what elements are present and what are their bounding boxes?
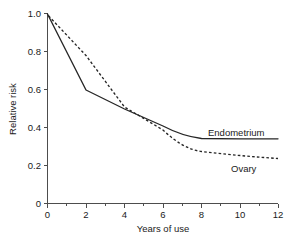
x-tick-label-2: 2 bbox=[83, 209, 88, 220]
series-label-ovary: Ovary bbox=[231, 163, 257, 174]
y-tick-label-0: 0 bbox=[36, 198, 41, 209]
y-tick-label-0.6: 0.6 bbox=[28, 84, 41, 95]
x-axis-title: Years of use bbox=[137, 223, 189, 234]
y-axis-ticks bbox=[44, 14, 48, 204]
x-tick-label-6: 6 bbox=[160, 209, 165, 220]
y-tick-label-0.4: 0.4 bbox=[28, 122, 41, 133]
relative-risk-line-chart: 0 0.2 0.4 0.6 0.8 1.0 0 2 4 6 8 bbox=[0, 0, 295, 238]
x-tick-label-4: 4 bbox=[122, 209, 127, 220]
x-tick-label-10: 10 bbox=[235, 209, 246, 220]
y-tick-label-1.0: 1.0 bbox=[28, 8, 41, 19]
x-axis-major-ticks bbox=[48, 204, 279, 209]
series-label-endometrium: Endometrium bbox=[208, 127, 265, 138]
x-tick-label-8: 8 bbox=[199, 209, 204, 220]
x-tick-label-12: 12 bbox=[273, 209, 284, 220]
chart-plot-area: 0 0.2 0.4 0.6 0.8 1.0 0 2 4 6 8 bbox=[0, 0, 295, 238]
y-tick-label-0.2: 0.2 bbox=[28, 160, 41, 171]
series-line-endometrium bbox=[48, 14, 279, 139]
y-axis-title: Relative risk bbox=[7, 83, 18, 135]
x-tick-label-0: 0 bbox=[45, 209, 50, 220]
y-tick-label-0.8: 0.8 bbox=[28, 46, 41, 57]
